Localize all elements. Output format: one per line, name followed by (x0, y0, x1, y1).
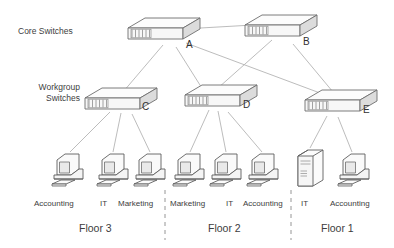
core-switch-a[interactable] (128, 18, 200, 39)
workstation-marketing-floor3[interactable] (134, 154, 165, 186)
dept-label-it-floor2: IT (226, 199, 233, 208)
floor-label-2: Floor 2 (208, 222, 241, 234)
workstation-accounting-floor1[interactable] (338, 154, 369, 186)
workstation-accounting-floor2[interactable] (247, 154, 278, 186)
device-layer (0, 0, 394, 248)
switch-label-c: C (142, 101, 149, 112)
dept-label-accounting-floor3: Accounting (34, 199, 74, 208)
workgroup-switches-label-line1: Workgroup (18, 82, 80, 93)
switch-label-a: A (186, 39, 193, 50)
dept-label-it-floor3: IT (100, 199, 107, 208)
floor-label-1: Floor 1 (321, 222, 354, 234)
switch-label-e: E (363, 104, 370, 115)
network-diagram-canvas: Core Switches Workgroup Switches A B C D… (0, 0, 394, 248)
switch-label-d: D (243, 99, 250, 110)
core-switches-label: Core Switches (18, 26, 73, 37)
floor-label-3: Floor 3 (79, 222, 112, 234)
dept-label-marketing-floor2: Marketing (170, 199, 205, 208)
workgroup-switches-label-line2: Switches (18, 93, 80, 104)
dept-label-it-floor1: IT (301, 199, 308, 208)
workstation-accounting-floor3[interactable] (52, 154, 83, 186)
workstation-it-floor3[interactable] (97, 154, 128, 186)
switch-label-b: B (303, 36, 310, 47)
server-it-floor1[interactable] (298, 150, 323, 186)
dept-label-accounting-floor2: Accounting (243, 199, 283, 208)
workstation-it-floor2[interactable] (210, 154, 241, 186)
core-switch-b[interactable] (245, 15, 317, 36)
dept-label-marketing-floor3: Marketing (118, 199, 153, 208)
dept-label-accounting-floor1: Accounting (330, 199, 370, 208)
workstation-marketing-floor2[interactable] (173, 154, 204, 186)
